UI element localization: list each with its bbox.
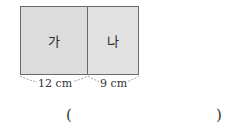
- answer-open-paren: (: [66, 106, 72, 124]
- answer-close-paren: ): [216, 106, 222, 124]
- width-label-ga: 12 cm: [37, 77, 73, 90]
- width-label-na: 9 cm: [99, 77, 128, 90]
- dimension-arcs: [0, 0, 236, 140]
